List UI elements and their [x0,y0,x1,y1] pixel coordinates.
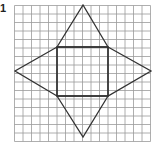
grid [15,6,151,142]
net-triangle-face [108,47,151,96]
pyramid-net-diagram [0,0,159,144]
net-triangle-face [15,47,57,96]
